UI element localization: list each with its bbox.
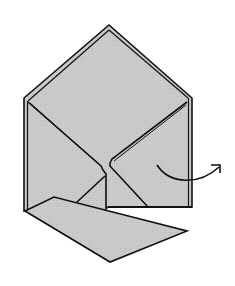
- diagram-canvas: [0, 0, 235, 286]
- origami-diagram: [0, 0, 235, 286]
